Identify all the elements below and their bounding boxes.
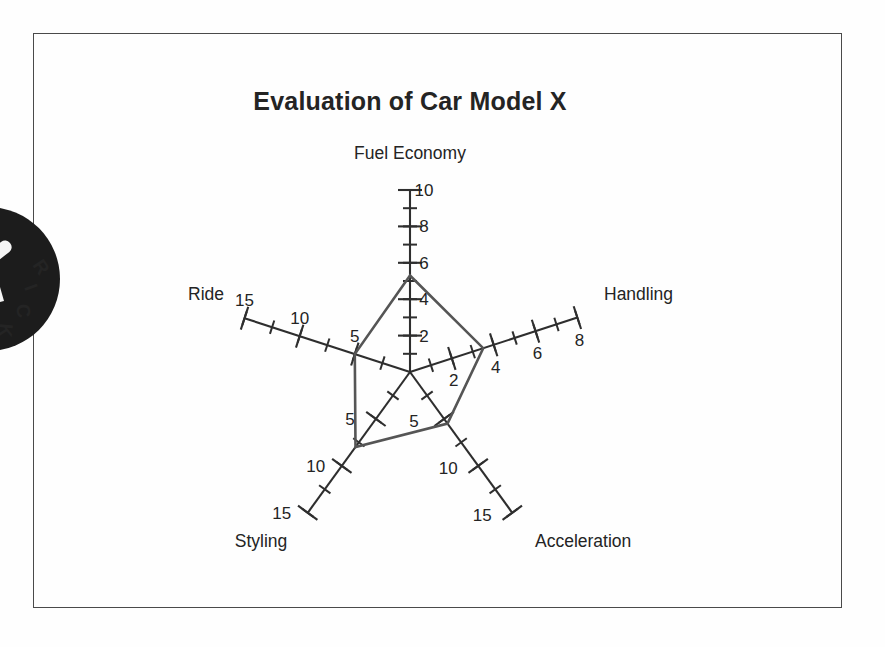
tick-label: 10 (415, 181, 434, 200)
tick-label: 2 (449, 371, 458, 390)
axis-label-styling: Styling (235, 531, 288, 551)
axis-tick (503, 506, 522, 520)
axis-tick (490, 485, 501, 493)
tick-label: 2 (419, 327, 428, 346)
tick-label: 5 (350, 327, 359, 346)
axis-tick (366, 412, 385, 426)
axis-label-fuel-economy: Fuel Economy (354, 143, 466, 163)
axis-tick (468, 459, 487, 473)
chart-page: R I C K Evaluation of Car Model X 246810… (0, 0, 885, 647)
tick-label: 10 (290, 309, 309, 328)
tick-label: 15 (473, 506, 492, 525)
tick-label: 8 (575, 331, 584, 350)
tick-label: 6 (419, 254, 428, 273)
axis-label-acceleration: Acceleration (535, 531, 631, 551)
axis-tick (298, 506, 317, 520)
radar-axis-labels-group: Fuel EconomyHandlingAccelerationStylingR… (188, 143, 673, 551)
axis-tick (332, 459, 351, 473)
tick-label: 6 (533, 344, 542, 363)
tick-label: 5 (345, 410, 354, 429)
axis-tick (421, 391, 432, 399)
axis-label-handling: Handling (604, 284, 673, 304)
tick-label: 10 (439, 459, 458, 478)
axis-tick (455, 438, 466, 446)
tick-label: 4 (491, 358, 500, 377)
tick-label: 15 (235, 291, 254, 310)
tick-label: 8 (419, 217, 428, 236)
axis-label-ride: Ride (188, 284, 224, 304)
radar-axes-group (241, 190, 581, 520)
axis-tick (319, 485, 330, 493)
chart-title: Evaluation of Car Model X (253, 87, 566, 115)
tick-label: 15 (272, 504, 291, 523)
axis-tick (387, 391, 398, 399)
tick-label: 10 (306, 457, 325, 476)
radar-chart: Evaluation of Car Model X 24681024685101… (0, 0, 885, 647)
tick-label: 5 (409, 412, 418, 431)
